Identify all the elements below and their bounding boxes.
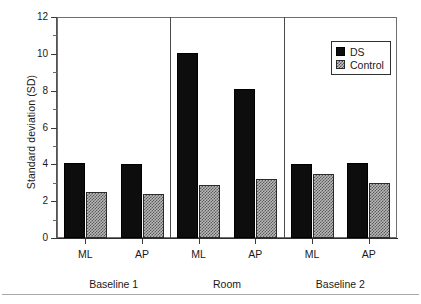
x-axis-line [56, 238, 398, 239]
y-tick-minor [53, 72, 57, 73]
legend-entry-ds: DS [336, 45, 384, 58]
x-axis-label-ap-1: AP [114, 248, 170, 260]
y-tick-minor [53, 220, 57, 221]
bar-ds-ap-5 [347, 163, 368, 239]
x-axis-label-ml-2: ML [171, 248, 227, 260]
bar-control-ap-3 [256, 179, 277, 238]
y-tick-major [51, 54, 57, 55]
x-tick [199, 239, 200, 244]
y-tick-minor [53, 146, 57, 147]
bar-control-ml-4 [313, 174, 334, 238]
y-tick-minor [53, 35, 57, 36]
x-tick [312, 239, 313, 244]
y-tick-major [51, 17, 57, 18]
bar-ds-ap-1 [121, 164, 142, 238]
y-tick-label: 10 [2, 49, 48, 59]
x-axis-label-ap-3: AP [227, 248, 283, 260]
bar-control-ml-0 [86, 192, 107, 238]
y-tick-major [51, 201, 57, 202]
legend-swatch-ds-icon [336, 47, 345, 56]
bar-ds-ml-4 [291, 164, 312, 238]
bottom-divider [2, 294, 419, 295]
y-tick-label: 6 [2, 123, 48, 133]
bar-ds-ml-0 [64, 163, 85, 239]
y-tick-label: 4 [2, 159, 48, 169]
bar-ds-ml-2 [177, 53, 198, 238]
x-axis-label-ap-5: AP [341, 248, 397, 260]
bar-control-ap-5 [369, 183, 390, 238]
x-axis-label-ml-0: ML [57, 248, 113, 260]
y-tick-minor [53, 109, 57, 110]
y-tick-major [51, 128, 57, 129]
legend-label-ds: DS [350, 46, 365, 58]
legend-label-control: Control [350, 59, 384, 71]
x-tick [255, 239, 256, 244]
group-label-baseline-2: Baseline 2 [275, 278, 405, 290]
y-tick-label: 0 [2, 233, 48, 243]
group-divider [284, 17, 285, 238]
y-tick-major [51, 238, 57, 239]
bar-ds-ap-3 [234, 89, 255, 238]
bar-chart-figure: Standard deviation (SD) 024681012 MLAPML… [0, 0, 421, 304]
chart-legend: DS Control [331, 41, 391, 75]
x-tick [85, 239, 86, 244]
group-divider [170, 17, 171, 238]
y-axis-tick-labels: 024681012 [0, 0, 48, 304]
y-tick-minor [53, 183, 57, 184]
bar-control-ap-1 [143, 194, 164, 238]
group-label-baseline-1: Baseline 1 [49, 278, 179, 290]
y-tick-label: 2 [2, 196, 48, 206]
x-axis-label-ml-4: ML [284, 248, 340, 260]
bar-control-ml-2 [199, 185, 220, 238]
legend-entry-control: Control [336, 58, 384, 71]
y-tick-label: 12 [2, 12, 48, 22]
x-tick [142, 239, 143, 244]
group-label-room: Room [162, 278, 292, 290]
legend-swatch-control-icon [336, 60, 345, 69]
y-tick-label: 8 [2, 86, 48, 96]
x-tick [369, 239, 370, 244]
y-tick-major [51, 91, 57, 92]
y-tick-major [51, 164, 57, 165]
